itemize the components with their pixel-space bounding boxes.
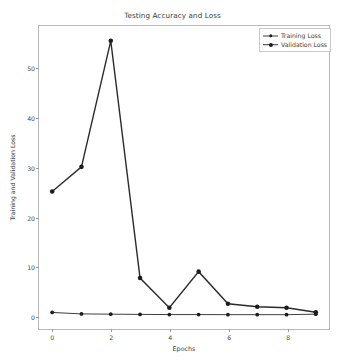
y-tick-label: 50 (27, 65, 35, 72)
data-point-marker (314, 310, 319, 315)
legend-label-training-loss: Training Loss (281, 32, 321, 39)
y-tick-label: 20 (27, 214, 35, 221)
y-tick-mark (36, 218, 39, 219)
y-tick-mark (36, 317, 39, 318)
y-tick-label: 40 (27, 115, 35, 122)
data-point-marker (80, 312, 84, 316)
x-tick-label: 2 (109, 334, 113, 341)
y-tick-label: 0 (31, 314, 35, 321)
data-point-marker (167, 305, 172, 310)
x-tick-label: 6 (227, 334, 231, 341)
data-point-marker (109, 312, 113, 316)
y-tick-mark (36, 168, 39, 169)
series-line (52, 41, 316, 312)
x-tick-label: 0 (50, 334, 54, 341)
x-tick-mark (111, 329, 112, 332)
y-tick-label: 10 (27, 264, 35, 271)
data-point-marker (284, 305, 289, 310)
data-point-marker (79, 165, 84, 170)
data-point-marker (255, 313, 259, 317)
legend-item-validation-loss[interactable]: Validation Loss (262, 40, 327, 49)
y-tick-mark (36, 267, 39, 268)
x-tick-mark (229, 329, 230, 332)
legend-item-training-loss[interactable]: Training Loss (262, 31, 327, 40)
y-axis-label: Training and Validation Loss (6, 25, 18, 330)
data-point-marker (167, 313, 171, 317)
x-tick-label: 4 (168, 334, 172, 341)
data-point-marker (285, 313, 289, 317)
data-point-marker (226, 302, 231, 307)
data-point-marker (197, 313, 201, 317)
data-point-marker (226, 313, 230, 317)
x-axis-label: Epochs (38, 345, 330, 353)
chart-title: Testing Accuracy and Loss (0, 11, 345, 20)
y-tick-mark (36, 68, 39, 69)
data-point-marker (50, 189, 55, 194)
plot-area: 0102030405002468 (38, 25, 330, 330)
x-tick-label: 8 (286, 334, 290, 341)
data-point-marker (138, 313, 142, 317)
chart-legend: Training Loss Validation Loss (259, 28, 331, 52)
data-point-marker (50, 311, 54, 315)
data-point-marker (108, 39, 113, 44)
series-line (52, 312, 316, 314)
legend-marker-validation-loss (262, 40, 279, 49)
y-tick-mark (36, 118, 39, 119)
plot-inner: 0102030405002468 (39, 26, 329, 329)
y-axis-label-text: Training and Validation Loss (9, 134, 16, 220)
data-point-marker (138, 276, 143, 281)
x-tick-mark (288, 329, 289, 332)
legend-marker-training-loss (262, 31, 279, 40)
data-point-marker (255, 304, 260, 309)
y-tick-label: 30 (27, 164, 35, 171)
data-point-marker (196, 269, 201, 274)
x-tick-mark (170, 329, 171, 332)
chart-figure: Testing Accuracy and Loss Training and V… (0, 0, 345, 364)
x-tick-mark (52, 329, 53, 332)
series-layer (39, 26, 329, 329)
legend-label-validation-loss: Validation Loss (281, 41, 327, 48)
